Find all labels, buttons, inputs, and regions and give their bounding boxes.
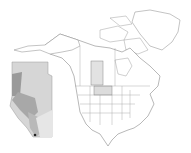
alberta-inset bbox=[10, 62, 52, 137]
north-america-map bbox=[0, 0, 191, 153]
montana-highlight bbox=[94, 86, 112, 95]
alberta-highlight bbox=[91, 61, 103, 85]
